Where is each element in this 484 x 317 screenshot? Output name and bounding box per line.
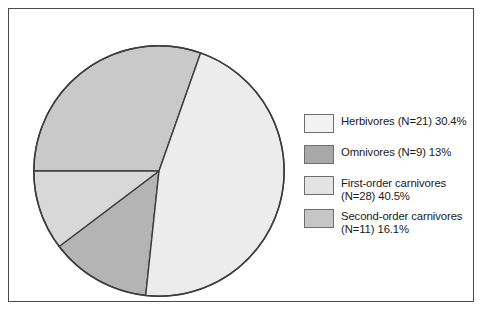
legend-label-second-order-carnivores: Second-order carnivores (N=11) 16.1%: [341, 208, 462, 235]
chart-legend: Herbivores (N=21) 30.4% Omnivores (N=9) …: [304, 113, 482, 241]
pie-slice-group: [34, 46, 284, 296]
legend-swatch-second-order-carnivores: [304, 209, 334, 228]
legend-item-herbivores[interactable]: Herbivores (N=21) 30.4%: [304, 113, 482, 135]
legend-label-first-order-carnivores: First-order carnivores (N=28) 40.5%: [341, 175, 446, 202]
legend-item-first-order-carnivores[interactable]: First-order carnivores (N=28) 40.5%: [304, 175, 482, 202]
pie-chart-svg: [26, 38, 292, 304]
figure-frame: Herbivores (N=21) 30.4% Omnivores (N=9) …: [8, 8, 474, 302]
pie-chart: [26, 38, 292, 304]
legend-label-herbivores: Herbivores (N=21) 30.4%: [341, 113, 466, 128]
legend-label-omnivores: Omnivores (N=9) 13%: [341, 144, 451, 159]
legend-swatch-omnivores: [304, 145, 334, 164]
legend-item-second-order-carnivores[interactable]: Second-order carnivores (N=11) 16.1%: [304, 208, 482, 235]
legend-swatch-herbivores: [304, 114, 334, 133]
legend-item-omnivores[interactable]: Omnivores (N=9) 13%: [304, 144, 482, 166]
legend-swatch-first-order-carnivores: [304, 176, 334, 195]
